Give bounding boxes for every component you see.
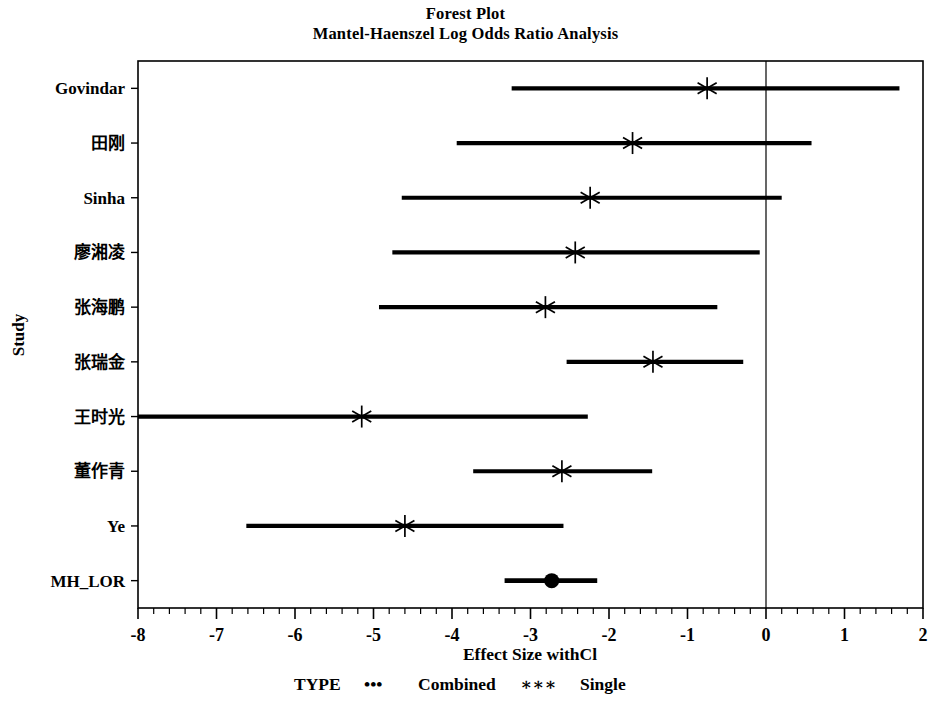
x-axis-tick-labels: -8-7-6-5-4-3-2-1012 xyxy=(131,625,928,645)
y-tick-label-田刚: 田刚 xyxy=(91,134,125,153)
y-axis-title: Study xyxy=(9,313,28,356)
x-tick-label: -1 xyxy=(680,625,695,645)
forest-rows xyxy=(138,77,899,588)
x-tick-label: -5 xyxy=(366,625,381,645)
x-tick-label: -4 xyxy=(445,625,460,645)
combined-estimate-dot xyxy=(544,573,559,588)
x-tick-label: 2 xyxy=(919,625,928,645)
legend-combined-label: Combined xyxy=(418,674,496,694)
y-axis-labels: Govindar田刚Sinha廖湘凌张海鹏张瑞金王时光董作青YeMH_LOR xyxy=(50,79,126,590)
legend-single-label: Single xyxy=(580,674,626,694)
y-tick-label-董作青: 董作青 xyxy=(74,461,125,481)
x-tick-label: -6 xyxy=(288,625,303,645)
forest-plot-canvas: Govindar田刚Sinha廖湘凌张海鹏张瑞金王时光董作青YeMH_LOR -… xyxy=(0,0,931,725)
x-tick-label: -2 xyxy=(602,625,617,645)
y-tick-label-张瑞金: 张瑞金 xyxy=(74,352,126,372)
forest-row-Govindar xyxy=(512,77,900,99)
forest-row-Sinha xyxy=(402,187,782,209)
legend: TYPE•••Combined∗∗∗Single xyxy=(294,674,626,694)
x-tick-label: -8 xyxy=(131,625,146,645)
y-tick-label-张海鹏: 张海鹏 xyxy=(74,297,125,317)
y-tick-label-廖湘凌: 廖湘凌 xyxy=(74,242,126,262)
legend-title: TYPE xyxy=(294,674,341,694)
x-tick-label: 1 xyxy=(840,625,849,645)
forest-row-董作青 xyxy=(473,460,652,482)
x-tick-label: -7 xyxy=(209,625,224,645)
x-axis-ticks xyxy=(138,608,923,619)
y-axis-ticks xyxy=(131,88,138,580)
forest-row-王时光 xyxy=(138,406,588,428)
y-tick-label-Govindar: Govindar xyxy=(55,79,125,98)
forest-row-张海鹏 xyxy=(379,296,717,318)
forest-row-张瑞金 xyxy=(567,351,744,373)
y-tick-label-Ye: Ye xyxy=(107,517,125,536)
legend-single-symbol: ∗∗∗ xyxy=(520,674,556,694)
y-tick-label-Sinha: Sinha xyxy=(83,189,125,208)
x-tick-label: 0 xyxy=(762,625,771,645)
legend-combined-symbol: ••• xyxy=(364,674,382,694)
x-axis-title: Effect Size withCl xyxy=(463,644,597,664)
forest-row-Ye xyxy=(246,515,563,537)
forest-plot-figure: Forest Plot Mantel-Haenszel Log Odds Rat… xyxy=(0,0,931,725)
y-tick-label-MH_LOR: MH_LOR xyxy=(50,572,125,591)
x-tick-label: -3 xyxy=(523,625,538,645)
forest-row-廖湘凌 xyxy=(392,241,759,263)
forest-row-MH_LOR xyxy=(505,573,598,588)
forest-row-田刚 xyxy=(457,132,812,154)
y-tick-label-王时光: 王时光 xyxy=(74,407,125,427)
